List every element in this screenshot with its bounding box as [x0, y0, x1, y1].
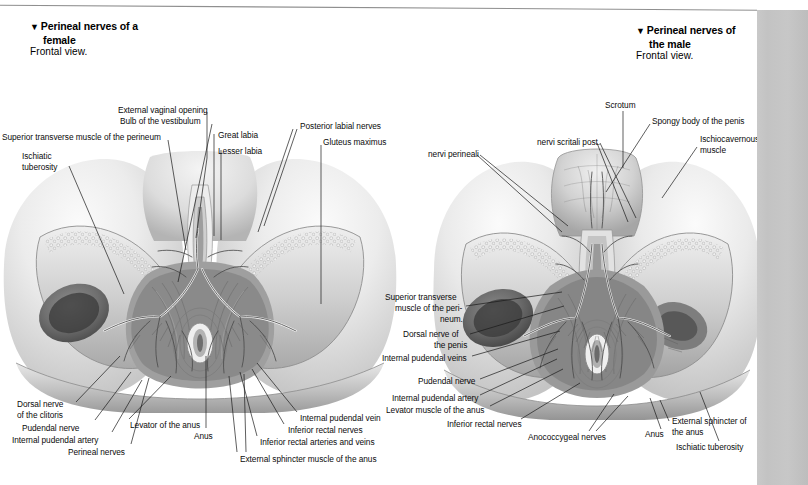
label-perineal-nerves: Perineal nerves: [68, 448, 125, 458]
label-great-labia: Great labia: [218, 131, 258, 141]
label-bulb-of-the-vestibulum: Bulb of the vestibulum: [120, 117, 201, 127]
label-levator-muscle-of-the-anus: Levator muscle of the anus: [386, 406, 484, 416]
label-internal-pudendal-veins: Internal pudendal veins: [382, 354, 467, 364]
label-inferior-rectal-nerves: Inferior rectal nerves: [288, 426, 363, 436]
label-scrotum: Scrotum: [605, 101, 636, 111]
label-superior-transverse-3: neum.: [440, 315, 463, 325]
label-spongy-body-of-the-penis: Spongy body of the penis: [652, 117, 744, 127]
illustration-perineal-nerves-female: [0, 145, 400, 415]
label-dorsal-nerve-of-the-clitoris-2: of the clitoris: [17, 411, 63, 421]
scan-edge-top-gap: [757, 0, 808, 10]
figure-title-line1-male: Perineal nerves of: [647, 24, 736, 36]
label-dorsal-nerve-of-the-penis-2: the penis: [434, 341, 467, 351]
label-anus: Anus: [194, 432, 213, 442]
label-dorsal-nerve-of-the-penis-1: Dorsal nerve of: [403, 330, 459, 340]
label-posterior-labial-nerves: Posterior labial nerves: [300, 122, 381, 132]
label-levator-of-the-anus: Levator of the anus: [130, 421, 200, 431]
label-dorsal-nerve-of-the-clitoris-1: Dorsal nerve: [17, 400, 63, 410]
label-pudendal-nerve: Pudendal nerve: [22, 424, 79, 434]
label-external-vaginal-opening: External vaginal opening: [118, 106, 208, 116]
figure-heading-female: ▼Perineal nerves of a female Frontal vie…: [30, 20, 200, 59]
label-internal-pudendal-artery-m: Internal pudendal artery: [392, 394, 478, 404]
label-internal-pudendal-artery: Internal pudendal artery: [12, 436, 98, 446]
label-nervi-scritali-post: nervi scritali post.: [537, 138, 600, 148]
figure-title-line1-female: Perineal nerves of a: [41, 20, 138, 32]
label-inferior-rectal-nerves-m: Inferior rectal nerves: [447, 420, 522, 430]
label-nervi-perineali: nervi perineali: [428, 150, 479, 160]
label-ischiatic-tuberosity-2: tuberosity: [22, 163, 57, 173]
label-lesser-labia: Lesser labia: [218, 147, 262, 157]
label-anococcygeal-nerves: Anococcygeal nerves: [528, 433, 606, 443]
label-superior-transverse-muscle-of-the-perineum: Superior transverse muscle of the perine…: [2, 133, 161, 143]
triangle-marker-icon: ▼: [30, 22, 39, 32]
label-ischiatic-tuberosity-1: Ischiatic: [22, 152, 52, 162]
page-canvas: ▼Perineal nerves of a female Frontal vie…: [0, 0, 808, 485]
label-external-sphincter-of-1: External sphincter of: [672, 417, 747, 427]
label-inferior-rectal-arteries-and-veins: Inferior rectal arteries and veins: [260, 438, 375, 448]
label-ischiatic-tuberosity-m: Ischiatic tuberosity: [676, 443, 743, 453]
figure-title-line2-female: female: [43, 34, 76, 46]
label-external-sphincter-muscle-of-the-anus: External sphincter muscle of the anus: [240, 455, 377, 465]
label-internal-pudendal-vein: Internal pudendal vein: [300, 414, 381, 424]
label-pudendal-nerve-m: Pudendal nerve: [418, 377, 475, 387]
illustration-perineal-nerves-male: [432, 140, 762, 425]
top-rule: [0, 4, 760, 12]
label-superior-transverse-1: Superior transverse: [385, 293, 456, 303]
figure-subtitle-female: Frontal view.: [30, 46, 200, 59]
label-ischiocavernous-muscle-2: muscle: [700, 146, 726, 156]
scan-edge-band: [757, 0, 808, 485]
triangle-marker-icon: ▼: [636, 26, 645, 36]
figure-title-line2-male: the male: [649, 38, 691, 50]
label-anus-m: Anus: [645, 430, 664, 440]
label-superior-transverse-2: muscle of the peri-: [395, 304, 462, 314]
label-external-sphincter-of-2: the anus: [672, 428, 703, 438]
label-gluteus-maximus: Gluteus maximus: [323, 138, 386, 148]
label-ischiocavernous-muscle-1: Ischiocavernous: [700, 135, 759, 145]
